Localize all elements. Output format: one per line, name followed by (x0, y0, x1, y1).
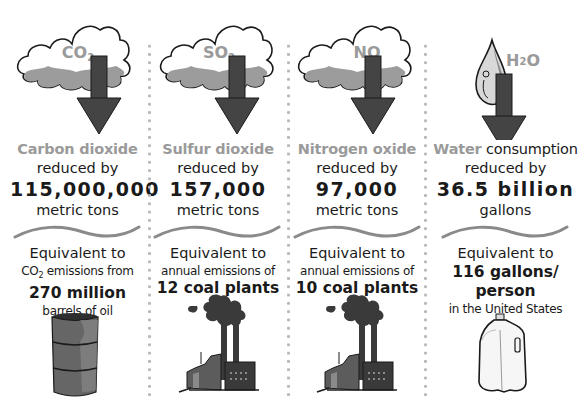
cloud-no-down-arrow-icon: NO (293, 0, 421, 140)
reduction-amount: 157,000 (153, 178, 283, 201)
coal-plant-icon (153, 292, 283, 400)
equivalent-value: 270 million (10, 284, 145, 303)
dotted-divider (287, 42, 290, 398)
gas-name: Sulfur dioxide (153, 140, 283, 159)
gas-name: Water consumption (432, 140, 579, 159)
wave-divider (153, 223, 283, 241)
equivalent-label: Equivalent to (432, 244, 579, 263)
milk-jug-icon (432, 312, 579, 401)
wave-divider (13, 223, 143, 241)
reduction-amount: 115,000,000 (10, 178, 145, 201)
reduction-unit: metric tons (153, 201, 283, 220)
stat-block: Nitrogen oxide reduced by 97,000 metric … (293, 140, 421, 298)
reduction-amount: 97,000 (293, 178, 421, 201)
stat-block: Water consumption reduced by 36.5 billio… (432, 140, 579, 317)
reduction-unit: metric tons (10, 201, 145, 220)
column-sulfur-dioxide: SO2 Sulfur dioxide reduced by 157,000 me… (153, 0, 283, 413)
reduction-amount: 36.5 billion (432, 178, 579, 201)
equivalent-label: Equivalent to (10, 244, 145, 263)
stat-block: Carbon dioxide reduced by 115,000,000 me… (10, 140, 145, 319)
stat-block: Sulfur dioxide reduced by 157,000 metric… (153, 140, 283, 298)
oil-barrel-icon (10, 312, 145, 406)
equivalent-value: 116 gallons/ (432, 263, 579, 282)
coal-plant-icon (293, 292, 421, 400)
reduced-label: reduced by (10, 159, 145, 178)
equivalent-detail: annual emissions of (153, 263, 283, 279)
equivalent-detail: CO2 emissions from (10, 263, 145, 284)
wave-divider (441, 223, 571, 241)
column-water: H2O Water consumption reduced by 36.5 bi… (432, 0, 579, 413)
cloud-co2-down-arrow-icon: CO2 (10, 0, 145, 140)
gas-name: Nitrogen oxide (293, 140, 421, 159)
equivalent-label: Equivalent to (293, 244, 421, 263)
equivalent-value-cont: person (432, 282, 579, 301)
column-carbon-dioxide: CO2 Carbon dioxide reduced by 115,000,00… (10, 0, 145, 413)
reduction-unit: gallons (432, 201, 579, 220)
reduction-unit: metric tons (293, 201, 421, 220)
equivalent-label: Equivalent to (153, 244, 283, 263)
gas-name: Carbon dioxide (10, 140, 145, 159)
reduced-label: reduced by (432, 159, 579, 178)
reduced-label: reduced by (293, 159, 421, 178)
dotted-divider (424, 42, 427, 398)
svg-text:H2O: H2O (506, 51, 540, 70)
wave-divider (293, 223, 423, 241)
dotted-divider (148, 42, 151, 398)
column-nitrogen-oxide: NO Nitrogen oxide reduced by 97,000 metr… (293, 0, 421, 413)
cloud-so2-down-arrow-icon: SO2 (153, 0, 283, 140)
water-drop-down-arrow-icon: H2O (432, 0, 579, 140)
reduced-label: reduced by (153, 159, 283, 178)
equivalent-detail: annual emissions of (293, 263, 421, 279)
